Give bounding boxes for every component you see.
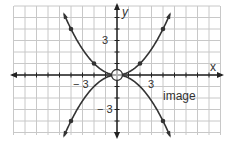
x-tick-label-neg3: − 3 xyxy=(73,79,89,90)
y-axis-label: y xyxy=(122,6,128,18)
x-axis-label: x xyxy=(210,61,216,73)
coordinate-plane xyxy=(0,0,228,152)
x-tick-label-pos3: 3 xyxy=(148,79,154,90)
y-tick-label-pos3: 3 xyxy=(102,35,108,46)
image-label: image xyxy=(163,90,196,102)
y-tick-label-neg3: − 3 xyxy=(97,104,113,115)
